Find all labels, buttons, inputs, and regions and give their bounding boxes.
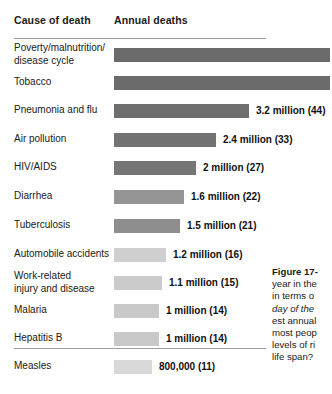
header-divider [14, 38, 266, 39]
row-label: Work-related injury and disease [14, 270, 95, 295]
bar [114, 248, 166, 262]
row-label: Air pollution [14, 133, 66, 146]
figure-caption-line: levels of ri [272, 339, 332, 351]
bar-value-label: 1.2 million (16) [173, 249, 242, 260]
row-label: Hepatitis B [14, 332, 62, 345]
figure-caption: Figure 17- year in thein terms oday of t… [272, 266, 332, 364]
bar [114, 133, 216, 147]
row-label: Malaria [14, 304, 47, 317]
figure-caption-line: in terms o [272, 290, 332, 302]
column-header-annual-deaths: Annual deaths [114, 14, 188, 26]
last-row-divider [14, 348, 266, 349]
figure-caption-body: year in thein terms oday of theest annua… [272, 278, 332, 363]
bar [114, 276, 162, 290]
bar [114, 360, 152, 374]
bar-value-label: 800,000 (11) [159, 361, 215, 372]
bar [114, 190, 184, 204]
bar [114, 332, 159, 346]
bar [114, 304, 159, 318]
column-header-cause-of-death: Cause of death [14, 14, 91, 26]
row-label: Automobile accidents [14, 248, 109, 261]
row-label: Pneumonia and flu [14, 104, 97, 117]
figure-caption-title: Figure 17- [272, 266, 332, 278]
chart-header: Cause of death Annual deaths [0, 14, 320, 30]
figure-caption-line: year in the [272, 278, 332, 290]
bar [114, 104, 249, 118]
row-label: Tuberculosis [14, 219, 70, 232]
bar-value-label: 2 million (27) [203, 162, 264, 173]
bar [114, 76, 330, 90]
bar-value-label: 1.5 million (21) [187, 220, 256, 231]
bar [114, 48, 330, 62]
row-label: Diarrhea [14, 190, 52, 203]
row-label: HIV/AIDS [14, 161, 57, 174]
figure-caption-line: est annual [272, 315, 332, 327]
row-label: Measles [14, 360, 51, 373]
row-label: Tobacco [14, 76, 51, 89]
bar-value-label: 3.2 million (44) [256, 105, 325, 116]
bar-value-label: 2.4 million (33) [223, 134, 292, 145]
figure-caption-line: most peop [272, 327, 332, 339]
bar [114, 219, 180, 233]
bar [114, 161, 196, 175]
figure-caption-line: life span? [272, 351, 332, 363]
bar-value-label: 1 million (14) [166, 333, 227, 344]
bar-value-label: 1 million (14) [166, 305, 227, 316]
bar-value-label: 1.6 million (22) [191, 191, 260, 202]
row-label: Poverty/malnutrition/ disease cycle [14, 42, 105, 67]
bar-value-label: 1.1 million (15) [169, 277, 238, 288]
figure-caption-line: day of the [272, 303, 332, 315]
